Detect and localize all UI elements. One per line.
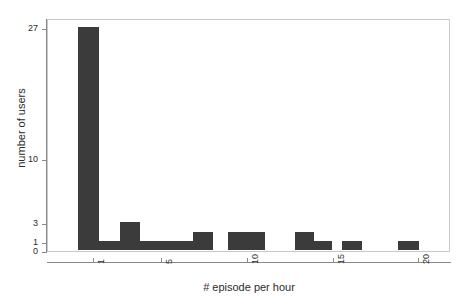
y-tick-label: 27 [12, 24, 38, 33]
x-tick-label: 15 [337, 254, 346, 264]
x-tick-label: 5 [165, 259, 174, 264]
x-tick-mark [93, 258, 94, 263]
x-tick-label: 20 [422, 254, 431, 264]
bar [342, 241, 362, 250]
bar [140, 241, 160, 250]
x-tick-mark [161, 258, 162, 263]
x-tick-mark [418, 258, 419, 263]
x-tick-label: 1 [97, 259, 106, 264]
y-tick-mark [42, 29, 46, 30]
y-tick-label: 3 [12, 219, 38, 228]
y-tick-mark [42, 252, 46, 253]
bar [314, 241, 332, 250]
x-axis-line [47, 262, 451, 263]
y-tick-mark [42, 160, 46, 161]
y-tick-mark [42, 224, 46, 225]
plot-area [47, 19, 450, 252]
y-axis-line [46, 19, 47, 253]
x-tick-mark [247, 258, 248, 263]
bar [247, 232, 265, 251]
y-axis-title: number of users [15, 68, 27, 188]
bar [99, 241, 120, 250]
bar [120, 222, 140, 250]
bar [160, 241, 180, 250]
bar [295, 232, 314, 251]
bar [193, 232, 213, 251]
bar [78, 27, 99, 250]
histogram-figure: 2710310 number of users 15101520 # episo… [0, 0, 471, 302]
y-tick-label: 0 [12, 247, 38, 256]
bar [398, 241, 419, 250]
bar [228, 232, 247, 251]
x-axis-title: # episode per hour [47, 281, 451, 293]
y-tick-mark [42, 243, 46, 244]
x-tick-label: 10 [251, 254, 260, 264]
x-tick-mark [333, 258, 334, 263]
